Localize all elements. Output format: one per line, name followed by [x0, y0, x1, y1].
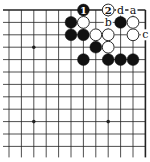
stone-disc — [115, 17, 127, 29]
black-stone — [78, 54, 90, 66]
white-stone — [77, 16, 90, 29]
move-number: 1 — [80, 5, 87, 16]
white-stone: 2 — [102, 4, 115, 17]
black-stone: 1 — [78, 4, 90, 16]
stone-disc — [115, 54, 127, 66]
black-stone — [127, 54, 139, 66]
stone-disc — [90, 29, 102, 41]
go-board: 12 dabc — [0, 0, 150, 162]
stone-disc — [102, 41, 114, 53]
stone-disc — [65, 17, 77, 29]
white-stone — [127, 29, 140, 42]
stone-disc — [78, 17, 90, 29]
move-number: 2 — [105, 5, 112, 16]
stone-disc — [78, 54, 90, 66]
black-stone — [65, 17, 77, 29]
white-stone — [90, 29, 103, 42]
point-label: d — [117, 4, 124, 17]
star-point — [32, 120, 36, 124]
stone-disc — [90, 41, 102, 53]
white-stone — [127, 16, 140, 29]
white-stone — [102, 41, 115, 54]
black-stone — [90, 41, 102, 53]
stone-disc — [102, 29, 114, 41]
black-stone — [115, 17, 127, 29]
stone-disc — [127, 29, 139, 41]
point-label: c — [142, 28, 148, 41]
black-stone — [78, 29, 90, 41]
star-point — [32, 45, 36, 49]
stones-layer: 12 — [65, 4, 139, 66]
stone-disc — [127, 17, 139, 29]
stone-disc — [78, 29, 90, 41]
black-stone — [115, 54, 127, 66]
point-label: a — [130, 4, 137, 17]
black-stone — [65, 29, 77, 41]
stone-disc — [102, 54, 114, 66]
black-stone — [102, 54, 114, 66]
stone-disc — [65, 29, 77, 41]
stone-disc — [127, 54, 139, 66]
point-label: b — [105, 16, 112, 29]
white-stone — [102, 29, 115, 42]
star-point — [106, 120, 110, 124]
